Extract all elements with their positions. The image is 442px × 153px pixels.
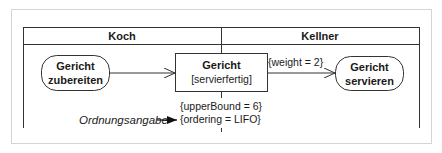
action-serve-line1: Gericht: [350, 61, 389, 73]
action-serve-line2: servieren: [345, 75, 394, 87]
object-node-name: Gericht: [202, 59, 241, 71]
action-prepare-line2: zubereiten: [48, 74, 103, 86]
object-node-dish: Gericht [servierfertig]: [176, 54, 268, 92]
object-node-state: [servierfertig]: [191, 73, 252, 85]
edge-weight-label: {weight = 2}: [268, 56, 324, 68]
action-serve-dish: Gericht servieren: [336, 57, 404, 91]
action-prepare-dish: Gericht zubereiten: [42, 56, 110, 91]
swimlane-header-koch: Koch: [108, 30, 136, 42]
constraint-ordering: {ordering = LIFO}: [180, 113, 261, 125]
annotation-ordering-label: Ordnungsangabe: [79, 114, 168, 126]
constraint-upper-bound: {upperBound = 6}: [180, 100, 263, 112]
action-prepare-line1: Gericht: [56, 60, 95, 72]
swimlane-header-kellner: Kellner: [301, 30, 339, 42]
activity-diagram: Koch Kellner Gericht zubereiten Gericht …: [0, 0, 442, 153]
